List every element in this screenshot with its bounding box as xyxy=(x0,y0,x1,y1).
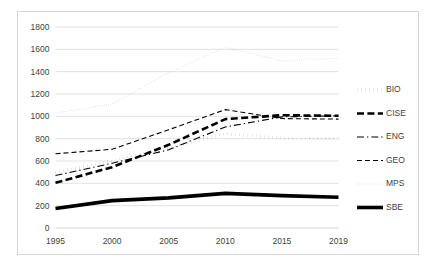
legend-label-mps: MPS xyxy=(386,178,405,188)
line-chart: 020040060080010001200140016001800 199520… xyxy=(0,0,436,268)
y-tick-label: 1600 xyxy=(31,44,50,54)
x-tick-label: 2015 xyxy=(272,236,291,246)
y-tick-label: 400 xyxy=(35,178,49,188)
x-axis-tick-labels: 199520002005201020152019 xyxy=(46,236,348,246)
y-axis-tick-labels: 020040060080010001200140016001800 xyxy=(31,22,50,233)
y-tick-label: 1000 xyxy=(31,111,50,121)
chart-container: 020040060080010001200140016001800 199520… xyxy=(0,0,436,268)
y-tick-label: 0 xyxy=(45,223,50,233)
x-tick-label: 2019 xyxy=(329,236,348,246)
legend-label-cise: CISE xyxy=(386,108,406,118)
y-tick-label: 200 xyxy=(35,201,49,211)
gridlines-group xyxy=(56,27,339,228)
legend-label-sbe: SBE xyxy=(386,202,403,212)
legend-label-eng: ENG xyxy=(386,131,404,141)
series-line-cise xyxy=(56,115,339,183)
y-tick-label: 600 xyxy=(35,156,49,166)
series-line-mps xyxy=(56,47,339,113)
x-tick-label: 2000 xyxy=(103,236,122,246)
x-tick-label: 2005 xyxy=(159,236,178,246)
y-tick-label: 1200 xyxy=(31,89,50,99)
chart-legend: BIOCISEENGGEOMPSSBE xyxy=(357,84,406,212)
y-tick-label: 1800 xyxy=(31,22,50,32)
legend-label-geo: GEO xyxy=(386,155,405,165)
x-tick-label: 1995 xyxy=(46,236,65,246)
series-line-eng xyxy=(56,116,339,176)
y-tick-label: 800 xyxy=(35,134,49,144)
x-tick-label: 2010 xyxy=(216,236,235,246)
legend-label-bio: BIO xyxy=(386,84,401,94)
series-line-sbe xyxy=(56,193,339,208)
y-tick-label: 1400 xyxy=(31,67,50,77)
